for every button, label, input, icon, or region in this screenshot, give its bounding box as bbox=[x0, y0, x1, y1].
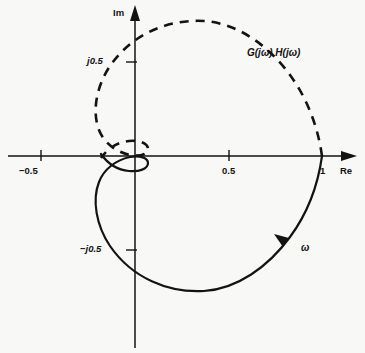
real-axis bbox=[8, 151, 357, 161]
tick-label-j0.5: j0.5 bbox=[87, 56, 103, 66]
imaginary-axis-label: Im bbox=[113, 8, 124, 18]
nyquist-dashed-branch bbox=[96, 21, 322, 158]
tick-label-minus-j0.5: −j0.5 bbox=[80, 244, 101, 254]
nyquist-solid-branch bbox=[96, 154, 322, 291]
omega-label: ω bbox=[301, 243, 309, 253]
real-axis-label: Re bbox=[340, 166, 352, 176]
imaginary-axis bbox=[130, 5, 140, 348]
tick-label-minus-0.5: −0.5 bbox=[19, 166, 38, 176]
tick-label-1: 1 bbox=[320, 166, 325, 176]
tick-label-0.5: 0.5 bbox=[222, 166, 235, 176]
nyquist-plot-figure: Im Re j0.5 −j0.5 −0.5 0.5 1 G(jω) H(jω) … bbox=[0, 0, 365, 353]
transfer-function-label: G(jω) H(jω) bbox=[247, 48, 300, 58]
omega-direction-arrow bbox=[274, 234, 289, 247]
plot-canvas bbox=[0, 0, 365, 353]
